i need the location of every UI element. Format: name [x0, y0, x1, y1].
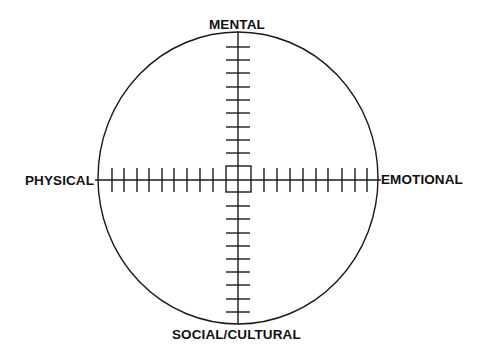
label-mental: MENTAL	[209, 18, 265, 32]
label-physical: PHYSICAL	[25, 174, 94, 188]
label-social-cultural: SOCIAL/CULTURAL	[172, 328, 301, 342]
label-emotional: EMOTIONAL	[381, 173, 463, 187]
